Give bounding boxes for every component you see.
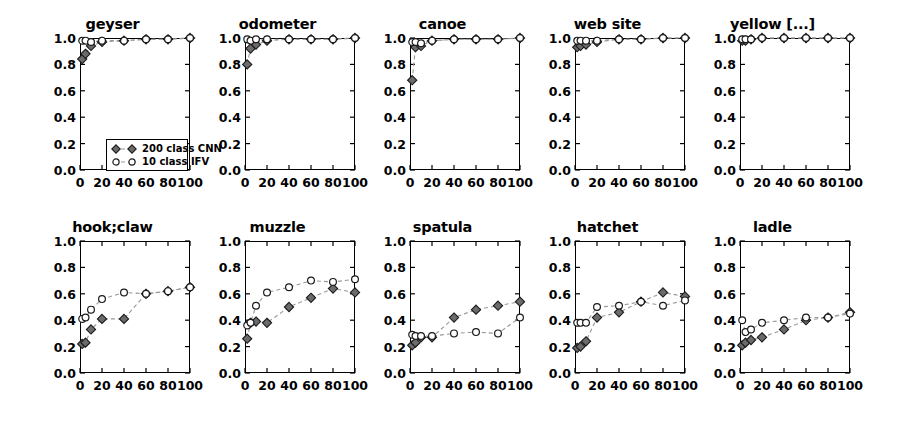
x-tick-label: 80 [159,378,176,393]
x-tick-label: 80 [324,175,341,190]
x-tick-label: 80 [489,175,506,190]
x-tick-label: 0 [406,378,415,393]
y-tick-label: 0.2 [32,136,76,151]
y-tick-label: 0.6 [32,286,76,301]
y-tick-label: 0.0 [362,163,406,178]
y-tick-label: 1.0 [32,31,76,46]
data-point-ifv [517,35,524,42]
x-tick-label: 40 [610,378,627,393]
data-point-ifv [187,35,194,42]
y-tick-label: 0.6 [527,286,571,301]
y-tick-label: 0.8 [362,57,406,72]
data-point-ifv [660,35,667,42]
y-tick-label: 0.6 [197,286,241,301]
data-point-ifv [264,289,271,296]
y-tick-label: 0.0 [527,366,571,381]
y-tick-label: 0.8 [197,57,241,72]
x-tick-label: 0 [571,175,580,190]
x-tick-label: 20 [423,378,440,393]
series-line [82,287,190,344]
y-tick-label: 1.0 [362,31,406,46]
y-tick-label: 0.4 [527,110,571,125]
series-line [577,292,685,347]
data-point-ifv [165,36,172,43]
data-point-ifv [660,302,667,309]
y-tick-label: 0.6 [692,83,736,98]
subplot-muzzle: muzzle0.00.20.40.60.81.0020406080100 [195,213,360,429]
y-tick-label: 0.6 [692,286,736,301]
x-tick-label: 40 [445,175,462,190]
series-line [742,312,850,345]
data-point-ifv [847,310,854,317]
x-tick-label: 80 [489,378,506,393]
x-tick-label: 20 [753,175,770,190]
legend-entry: 200 class CNN [110,142,184,155]
y-tick-label: 0.0 [32,163,76,178]
data-point-ifv [473,329,480,336]
plot-area [740,38,850,170]
data-point-ifv [748,36,755,43]
y-tick-label: 0.0 [32,366,76,381]
data-point-ifv [121,37,128,44]
y-tick-label: 0.4 [32,110,76,125]
data-point-cnn [243,334,252,343]
y-tick-label: 0.4 [692,313,736,328]
data-point-ifv [473,36,480,43]
y-tick-label: 1.0 [362,234,406,249]
x-tick-label: 80 [819,175,836,190]
data-point-ifv [803,314,810,321]
data-point-ifv [759,319,766,326]
x-tick-label: 40 [775,378,792,393]
data-point-ifv [121,289,128,296]
data-point-ifv [165,288,172,295]
x-tick-label: 40 [775,175,792,190]
plot-area [245,241,355,373]
subplot-hook-claw: hook;claw0.00.20.40.60.81.0020406080100 [30,213,195,429]
x-tick-label: 80 [819,378,836,393]
y-tick-label: 0.4 [362,110,406,125]
data-point-ifv [847,35,854,42]
data-point-cnn [658,288,667,297]
y-tick-label: 0.6 [527,83,571,98]
x-tick-label: 60 [467,378,484,393]
y-tick-label: 1.0 [692,31,736,46]
legend: 200 class CNN10 class IFV [106,139,188,171]
x-tick-label: 40 [610,175,627,190]
data-point-ifv [99,296,106,303]
data-point-ifv [286,36,293,43]
y-tick-label: 0.6 [362,83,406,98]
data-point-ifv [583,37,590,44]
data-point-ifv [352,276,359,283]
y-tick-label: 0.6 [32,83,76,98]
subplot-web-site: web site0.00.20.40.60.81.0020406080100 [525,10,690,226]
data-point-ifv [451,36,458,43]
data-point-cnn [306,293,315,302]
y-tick-label: 0.2 [527,339,571,354]
data-point-cnn [515,297,524,306]
data-point-ifv [495,330,502,337]
y-tick-label: 0.4 [32,313,76,328]
data-point-ifv [88,306,95,313]
data-point-ifv [825,35,832,42]
x-tick-label: 60 [137,175,154,190]
series-line [82,287,190,319]
data-point-cnn [779,325,788,334]
subplot-canoe: canoe0.00.20.40.60.81.0020406080100 [360,10,525,226]
y-tick-label: 0.8 [692,260,736,275]
y-tick-label: 0.8 [527,57,571,72]
y-tick-label: 0.8 [527,260,571,275]
x-tick-label: 20 [423,175,440,190]
data-point-ifv [616,36,623,43]
data-point-cnn [284,302,293,311]
data-point-ifv [739,317,746,324]
x-tick-label: 20 [588,175,605,190]
y-tick-label: 0.2 [197,136,241,151]
y-tick-label: 0.8 [32,57,76,72]
x-tick-label: 60 [632,175,649,190]
x-tick-label: 0 [406,175,415,190]
open-circle-icon [110,156,140,168]
data-point-ifv [781,317,788,324]
data-point-ifv [825,314,832,321]
data-point-ifv [429,37,436,44]
data-point-ifv [352,35,359,42]
